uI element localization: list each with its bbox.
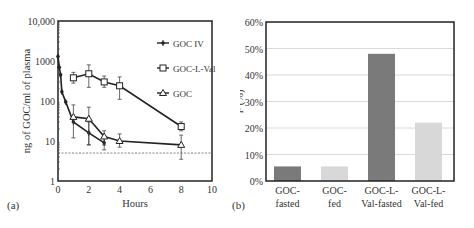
x-tick-label: 4 <box>117 184 122 195</box>
y-tick-label: 100 <box>40 96 55 107</box>
series-line <box>58 56 104 142</box>
panel-a-line-chart: 110100100010,0000246810Hoursng of GOC/ml… <box>0 0 240 228</box>
category-label: fed <box>328 198 341 209</box>
y-tick-label: 0% <box>250 176 263 187</box>
category-label: fasted <box>276 198 300 209</box>
square-marker <box>178 124 184 130</box>
legend-item: GOC-L-Val <box>157 64 216 74</box>
category-label: GOC-L- <box>365 185 399 196</box>
panel-b-bar-chart: 0%10%20%30%40%50%60%F (%)GOC-fastedGOC-f… <box>240 0 474 228</box>
category-label: Val-fed <box>414 198 443 209</box>
x-axis-label: Hours <box>122 198 148 209</box>
legend-item: GOC <box>157 89 192 99</box>
bar-goc-l-val-fasted <box>368 54 395 181</box>
y-tick-label: 50% <box>245 44 263 55</box>
y-tick-label: 20% <box>245 123 263 134</box>
y-axis-label: ng of GOC/ml of plasma <box>21 48 32 153</box>
bar-goc-fed <box>321 166 348 181</box>
bar-goc-fasted <box>274 166 301 181</box>
category-label: GOC-L- <box>412 185 446 196</box>
square-marker <box>70 75 76 81</box>
y-tick-label: 10% <box>245 150 263 161</box>
y-tick-label: 10 <box>45 136 55 147</box>
x-tick-label: 2 <box>86 184 91 195</box>
x-tick-label: 6 <box>148 184 153 195</box>
bioavailability-bar-chart: 0%10%20%30%40%50%60%F (%)GOC-fastedGOC-f… <box>240 0 474 228</box>
y-tick-label: 40% <box>245 70 263 81</box>
y-tick-label: 1 <box>50 176 55 187</box>
legend-item: GOC IV <box>157 39 204 49</box>
panel-a-label: (a) <box>7 199 19 211</box>
series-goc-iv <box>56 53 106 149</box>
square-marker <box>160 65 166 71</box>
legend-label: GOC IV <box>173 39 204 49</box>
bar-goc-l-val-fed <box>415 123 442 181</box>
pk-concentration-chart: 110100100010,0000246810Hoursng of GOC/ml… <box>0 0 240 228</box>
legend-label: GOC-L-Val <box>173 64 216 74</box>
category-label: GOC- <box>275 185 299 196</box>
x-tick-label: 8 <box>179 184 184 195</box>
y-tick-label: 10,000 <box>28 16 56 27</box>
legend-label: GOC <box>173 89 192 99</box>
x-tick-label: 0 <box>56 184 61 195</box>
y-tick-label: 30% <box>245 97 263 108</box>
square-marker <box>86 71 92 77</box>
square-marker <box>117 83 123 89</box>
y-tick-label: 60% <box>245 17 263 28</box>
square-marker <box>101 79 107 85</box>
category-label: Val-fasted <box>361 198 402 209</box>
panel-b-label: (b) <box>232 199 245 211</box>
category-label: GOC- <box>322 185 346 196</box>
x-tick-label: 10 <box>207 184 217 195</box>
y-tick-label: 1000 <box>35 56 55 67</box>
